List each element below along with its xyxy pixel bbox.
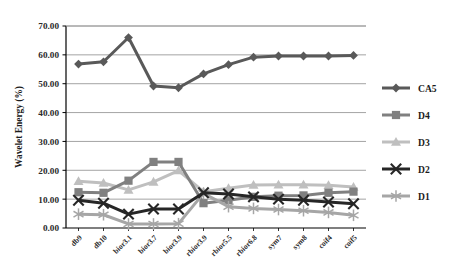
legend-label-D2: D2 [418, 164, 430, 175]
x-axis-tick-label: db10 [91, 233, 109, 251]
x-axis-tick-label: bior3.7 [136, 233, 159, 256]
marker-diamond [249, 53, 258, 62]
legend-item-CA5[interactable]: CA5 [382, 83, 437, 94]
x-axis-tick-label: coif4 [317, 233, 335, 251]
x-axis-tick-label: sym7 [266, 233, 284, 251]
marker-diamond [224, 60, 233, 69]
marker-diamond [349, 51, 358, 60]
x-axis-tick-label: bior3.1 [111, 233, 134, 256]
legend-item-D2[interactable]: D2 [382, 164, 430, 175]
marker-square [174, 158, 182, 166]
x-axis-tick-label: rbior5.5 [209, 233, 234, 258]
marker-star [223, 207, 228, 210]
x-axis-tick-label: db9 [69, 233, 84, 248]
marker-square [149, 158, 157, 166]
marker-square [124, 177, 132, 185]
marker-diamond [74, 60, 83, 69]
series-D2 [73, 188, 358, 220]
y-axis-tick-label: 40.00 [38, 108, 59, 118]
series-line-D3 [79, 171, 354, 192]
marker-diamond [299, 52, 308, 61]
legend-label-CA5: CA5 [418, 83, 437, 94]
series-line-D4 [79, 162, 354, 203]
marker-star [73, 211, 78, 214]
marker-square [74, 188, 82, 196]
legend-label-D3: D3 [418, 137, 430, 148]
marker-square [349, 188, 357, 196]
marker-square [99, 189, 107, 197]
series-line-D1 [79, 193, 354, 224]
wavelet-energy-chart: 0.0010.0020.0030.0040.0050.0060.0070.00W… [0, 0, 471, 274]
marker-star [354, 215, 359, 218]
x-axis-tick-label: rbior3.9 [184, 233, 209, 258]
marker-star [354, 212, 359, 215]
series-line-CA5 [79, 38, 354, 88]
y-axis-tick-label: 30.00 [38, 137, 59, 147]
y-axis-tick-label: 70.00 [38, 21, 59, 31]
y-axis-tick-label: 0.00 [43, 223, 59, 233]
x-axis-tick-label: coif5 [342, 233, 360, 251]
y-axis-title: Wavelet Energy (%) [14, 86, 25, 168]
y-axis-tick-label: 10.00 [38, 195, 59, 205]
legend: CA5D4D3D2D1 [382, 83, 437, 202]
legend-item-D4[interactable]: D4 [382, 110, 430, 121]
x-axis-tick-label: rbior6.8 [234, 233, 259, 258]
marker-diamond [274, 52, 283, 61]
legend-item-D1[interactable]: D1 [382, 190, 430, 202]
y-axis-tick-label: 20.00 [38, 166, 59, 176]
legend-label-D1: D1 [418, 191, 430, 202]
marker-square [199, 199, 207, 207]
marker-star [179, 224, 184, 227]
marker-diamond [324, 52, 333, 61]
chart-canvas: 0.0010.0020.0030.0040.0050.0060.0070.00W… [0, 0, 471, 274]
marker-diamond [392, 84, 401, 93]
y-axis-tick-label: 50.00 [38, 79, 59, 89]
x-axis-tick-label: bior3.9 [161, 233, 184, 256]
legend-item-D3[interactable]: D3 [382, 137, 430, 148]
y-axis-tick-label: 60.00 [38, 50, 59, 60]
marker-star [73, 214, 78, 217]
marker-square [324, 189, 332, 197]
x-axis-tick-label: sym8 [291, 233, 309, 251]
legend-label-D4: D4 [418, 110, 430, 121]
marker-square [392, 111, 400, 119]
